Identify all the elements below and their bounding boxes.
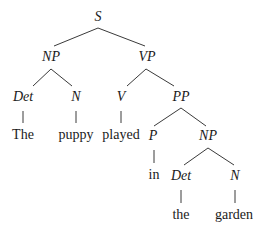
node-p: P [148,128,158,143]
node-np1: NP [41,49,60,64]
node-n2: N [229,168,240,183]
node-s: S [95,9,102,24]
edge-np2-det2 [184,148,208,165]
word-w_the2: the [172,207,189,222]
edge-np1-n1 [51,69,72,86]
node-v: V [117,89,127,104]
word-w_the1: The [12,127,34,142]
word-w_garden: garden [215,207,253,222]
edge-np2-n2 [208,148,234,165]
edge-np1-det1 [33,69,51,86]
node-pp: PP [171,89,190,104]
syntax-tree-diagram: SNPVPDetNVPPThepuppyplayedPNPinDetNthega… [0,0,266,237]
edge-s-np1 [54,28,98,46]
edge-pp-np2 [181,108,206,126]
edge-pp-p [154,108,181,126]
word-w_played: played [102,127,139,142]
edge-vp-v [127,69,146,86]
word-w_puppy: puppy [59,127,94,142]
node-np2: NP [198,128,217,143]
edge-vp-pp [146,69,174,86]
node-n1: N [70,89,81,104]
node-det1: Det [12,89,34,104]
edge-s-vp [98,28,145,46]
word-w_in: in [149,167,160,182]
node-det2: Det [170,168,192,183]
node-vp: VP [138,49,156,64]
